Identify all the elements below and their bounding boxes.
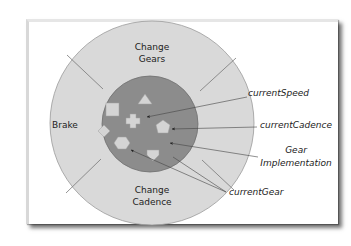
field-current-speed: currentSpeed	[248, 88, 309, 98]
square-shape	[106, 103, 119, 116]
method-change-cadence-line2: Cadence	[132, 197, 172, 207]
field-current-cadence: currentCadence	[260, 120, 333, 130]
method-brake: Brake	[52, 120, 78, 130]
bicycle-object-diagram: Change Gears Brake Change Cadence curren…	[0, 0, 351, 246]
field-current-gear: currentGear	[229, 187, 285, 197]
field-gear-implementation-line1: Gear	[285, 145, 308, 155]
field-gear-implementation-line2: Implementation	[260, 158, 332, 168]
method-change-gears-line2: Gears	[139, 54, 166, 64]
method-change-cadence-line1: Change	[135, 185, 170, 195]
method-change-gears-line1: Change	[135, 42, 170, 52]
